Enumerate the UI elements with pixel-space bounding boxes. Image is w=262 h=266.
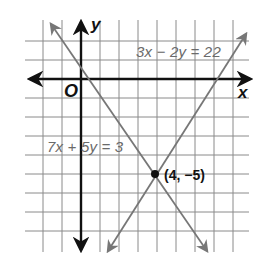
x-axis-label: x	[238, 84, 247, 101]
origin-label: O	[64, 82, 78, 100]
equation-label-7x-plus-5y: 7x + 5y = 3	[47, 139, 123, 154]
line-3x-minus-2y-eq-22	[108, 34, 246, 251]
y-axis-label: y	[91, 16, 100, 33]
equation-label-3x-minus-2y: 3x − 2y = 22	[136, 44, 221, 59]
intersection-point	[151, 170, 159, 178]
coordinate-plane	[0, 0, 262, 266]
point-label: (4, −5)	[164, 168, 205, 182]
